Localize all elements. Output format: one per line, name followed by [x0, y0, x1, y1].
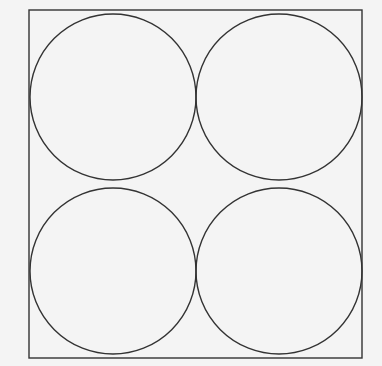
circle-top-left	[30, 14, 196, 180]
outer-square	[29, 10, 362, 358]
circle-bottom-left	[30, 188, 196, 354]
circles-in-square-figure	[0, 0, 382, 366]
circle-top-right	[196, 14, 362, 180]
circle-bottom-right	[196, 188, 362, 354]
diagram-canvas	[0, 0, 382, 366]
